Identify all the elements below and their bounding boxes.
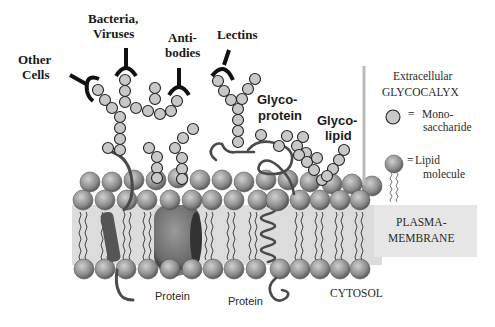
monosaccharide-chains [93,74,350,186]
legend-mono-2: saccharide [423,121,472,133]
receptor-lectins-icon [212,50,233,80]
receptor-antibodies-icon [169,68,189,95]
label-glycolipid-2: lipid [325,128,352,143]
legend-lipid-eq: = [407,154,414,166]
label-antibodies-1: Anti- [168,30,197,45]
plasma-membrane-box [374,205,477,257]
label-cytosol: CYTOSOL [330,287,383,299]
receptor-bacteria-icon [116,48,136,76]
legend-membrane: MEMBRANE [388,232,454,244]
label-lectins: Lectins [217,27,257,42]
legend-plasma: PLASMA- [396,216,447,228]
lipid-legend-tail [390,173,392,202]
legend-mono-1: Mono- [422,108,453,120]
glycoprotein-backbone [211,144,254,161]
label-glycolipid-1: Glyco- [317,113,357,128]
label-glycoprotein-2: protein [258,108,302,123]
label-other-cells-1: Other [18,52,51,67]
glycocalyx-diagram: Other Cells Bacteria, Viruses Anti- bodi… [0,0,495,327]
helical-protein-head [266,189,288,211]
legend-extracellular: Extracellular [393,70,453,82]
label-bacteria-2: Viruses [93,26,134,41]
label-other-cells-2: Cells [22,67,49,82]
label-bacteria-1: Bacteria, [88,11,138,26]
monosaccharide-legend-icon [386,110,400,124]
label-protein-right: Protein [228,295,263,307]
legend-mono-eq: = [408,108,415,120]
legend-lipid-2: molecule [423,168,465,180]
legend-lipid-1: Lipid [415,154,440,167]
label-glycoprotein-1: Glyco- [257,92,297,107]
lipid-legend-icon [385,155,403,173]
label-antibodies-2: bodies [165,45,200,60]
label-protein-left: Protein [155,290,190,302]
legend-glycocalyx: GLYCOCALYX [382,86,460,98]
